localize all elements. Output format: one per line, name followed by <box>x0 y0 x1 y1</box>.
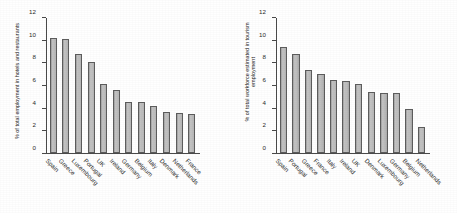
bar-slot <box>72 18 85 153</box>
y-tick-right-12: 12 <box>272 17 276 18</box>
bar-belgium <box>138 102 145 153</box>
y-tick-label-right-2: 2 <box>263 121 266 128</box>
bar-slot <box>302 18 315 153</box>
chart-panel-tourism-employment: % of total workforce estimated in touris… <box>228 0 457 213</box>
bar-belgium <box>405 109 412 153</box>
bar-netherlands <box>176 113 183 153</box>
x-label-slot: Portugal <box>85 157 98 211</box>
y-tick-right-10: 10 <box>272 40 276 41</box>
bar-series-left <box>47 18 198 153</box>
y-tick-label-left-8: 8 <box>33 53 36 60</box>
two-panel-bar-chart-figure: % of total employment in hotels and rest… <box>0 0 457 213</box>
bar-germany <box>125 102 132 153</box>
bar-portugal <box>88 62 95 153</box>
bar-slot <box>135 18 148 153</box>
bar-spain <box>50 38 57 153</box>
x-label-slot: Germany <box>391 157 404 211</box>
bar-luxembourg <box>380 93 387 153</box>
x-axis-labels-left: SpainGreeceLuxembourgPortugalUKIrelandGe… <box>47 157 199 211</box>
x-label-slot: Denmark <box>366 157 379 211</box>
y-tick-label-left-4: 4 <box>33 98 36 105</box>
x-label-slot: Portugal <box>290 157 303 211</box>
bar-slot <box>173 18 186 153</box>
chart-panel-hotels-restaurants: % of total employment in hotels and rest… <box>0 0 228 213</box>
bar-slot <box>378 18 391 153</box>
bar-italy <box>150 106 157 153</box>
y-tick-label-left-6: 6 <box>33 76 36 83</box>
bar-germany <box>393 93 400 153</box>
bar-slot <box>327 18 340 153</box>
bar-slot <box>185 18 198 153</box>
y-tick-right-8: 8 <box>272 62 276 63</box>
bar-uk <box>100 84 107 153</box>
x-axis-label-italy: Italy <box>326 157 339 170</box>
plot-area-left: 024681012 <box>46 18 198 154</box>
bar-italy <box>330 80 337 153</box>
y-tick-right-0: 0 <box>272 153 276 154</box>
y-tick-label-right-6: 6 <box>263 76 266 83</box>
bar-slot <box>415 18 428 153</box>
y-tick-left-2: 2 <box>42 130 46 131</box>
y-tick-left-0: 0 <box>42 153 46 154</box>
x-label-slot: Belgium <box>404 157 417 211</box>
y-tick-label-right-4: 4 <box>263 98 266 105</box>
y-tick-right-6: 6 <box>272 85 276 86</box>
bar-france <box>317 74 324 153</box>
y-tick-label-left-12: 12 <box>29 8 36 15</box>
bar-slot <box>315 18 328 153</box>
bar-slot <box>60 18 73 153</box>
x-label-slot: Italy <box>328 157 341 211</box>
bar-slot <box>97 18 110 153</box>
x-axis-baseline-left <box>46 153 200 154</box>
bar-ireland <box>342 81 349 153</box>
bar-series-right <box>277 18 428 153</box>
x-label-slot: Luxembourg <box>378 157 391 211</box>
plot-area-right: 024681012 <box>276 18 428 154</box>
x-label-slot: Spain <box>277 157 290 211</box>
bar-ireland <box>113 90 120 153</box>
x-label-slot: Greece <box>60 157 73 211</box>
x-label-slot: UK <box>353 157 366 211</box>
bar-slot <box>277 18 290 153</box>
x-label-slot: Denmark <box>161 157 174 211</box>
bar-slot <box>340 18 353 153</box>
y-tick-label-left-2: 2 <box>33 121 36 128</box>
bar-slot <box>122 18 135 153</box>
x-label-slot: Ireland <box>340 157 353 211</box>
x-axis-label-uk: UK <box>96 157 107 168</box>
y-tick-left-8: 8 <box>42 62 46 63</box>
y-tick-label-right-0: 0 <box>263 144 266 151</box>
bar-slot <box>365 18 378 153</box>
x-label-slot: Germany <box>123 157 136 211</box>
bar-slot <box>403 18 416 153</box>
y-tick-label-left-10: 10 <box>29 30 36 37</box>
bar-denmark <box>368 92 375 153</box>
x-label-slot: Ireland <box>110 157 123 211</box>
bar-slot <box>290 18 303 153</box>
bar-netherlands <box>418 127 425 153</box>
bar-uk <box>355 84 362 153</box>
x-label-slot: UK <box>98 157 111 211</box>
y-tick-label-right-10: 10 <box>259 30 266 37</box>
x-label-slot: Greece <box>302 157 315 211</box>
bar-spain <box>280 47 287 153</box>
bar-slot <box>110 18 123 153</box>
y-tick-right-2: 2 <box>272 130 276 131</box>
x-label-slot: Luxembourg <box>72 157 85 211</box>
x-label-slot: France <box>315 157 328 211</box>
x-label-slot: Spain <box>47 157 60 211</box>
y-tick-left-6: 6 <box>42 85 46 86</box>
y-tick-label-right-8: 8 <box>263 53 266 60</box>
y-tick-left-12: 12 <box>42 17 46 18</box>
x-axis-label-italy: Italy <box>146 157 159 170</box>
bar-luxembourg <box>75 54 82 153</box>
bar-greece <box>305 70 312 153</box>
bar-denmark <box>163 112 170 153</box>
y-tick-label-right-12: 12 <box>259 8 266 15</box>
y-axis-title-left: % of total employment in hotels and rest… <box>14 22 28 140</box>
x-axis-labels-right: SpainPortugalGreeceFranceItalyIrelandUKD… <box>277 157 429 211</box>
bar-slot <box>47 18 60 153</box>
x-axis-label-netherlands: Netherlands <box>414 157 443 186</box>
bar-slot <box>390 18 403 153</box>
bar-slot <box>148 18 161 153</box>
